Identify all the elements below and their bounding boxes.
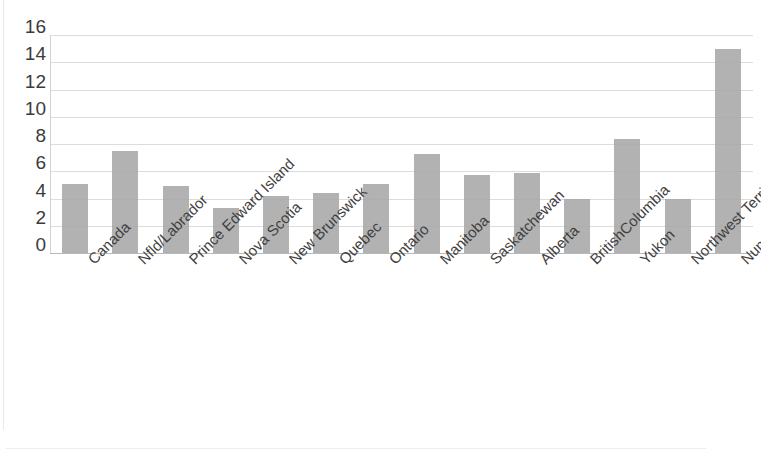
y-tick-label: 12 — [6, 72, 46, 91]
x-axis-label: Nfld/Labrador — [135, 256, 146, 267]
x-axis-label: Ontario — [386, 256, 397, 267]
bar-slot — [100, 35, 150, 253]
x-axis-label: New Brunswick — [286, 256, 297, 267]
bar-slot — [653, 35, 703, 253]
bar-series — [50, 35, 753, 253]
y-tick-label: 4 — [6, 181, 46, 200]
y-tick-label: 2 — [6, 208, 46, 227]
x-axis-label: Manitoba — [437, 256, 448, 267]
y-tick-label: 6 — [6, 153, 46, 172]
y-axis: 0246810121416 — [6, 26, 46, 258]
x-axis-label: Northwest Territories — [688, 256, 699, 267]
bar-slot — [552, 35, 602, 253]
x-axis-label: Alberta — [537, 256, 548, 267]
bar-chart: 0246810121416 CanadaNfld/LabradorPrince … — [0, 0, 761, 458]
bar-slot — [402, 35, 452, 253]
x-axis-label: Nunavut — [738, 256, 749, 267]
x-axis-category-labels: CanadaNfld/LabradorPrince Edward IslandN… — [50, 256, 753, 456]
x-axis-label: Canada — [85, 256, 96, 267]
x-axis-label: Quebec — [336, 256, 347, 267]
scan-edge-left — [3, 0, 4, 430]
bar-slot — [50, 35, 100, 253]
x-axis-label: Prince Edward Island — [186, 256, 197, 267]
y-tick-label: 8 — [6, 126, 46, 145]
y-tick-label: 0 — [6, 235, 46, 254]
y-tick-label: 10 — [6, 99, 46, 118]
bar-slot — [351, 35, 401, 253]
plot-area — [50, 35, 753, 253]
y-tick-label: 14 — [6, 44, 46, 63]
y-tick-label: 16 — [6, 17, 46, 36]
x-axis-label: Nova Scotia — [236, 256, 247, 267]
x-axis-label: Saskatchewan — [487, 256, 498, 267]
x-axis-label: Yukon — [637, 256, 648, 267]
x-axis-label: BritishColumbia — [587, 256, 598, 267]
bar[interactable] — [62, 184, 88, 253]
